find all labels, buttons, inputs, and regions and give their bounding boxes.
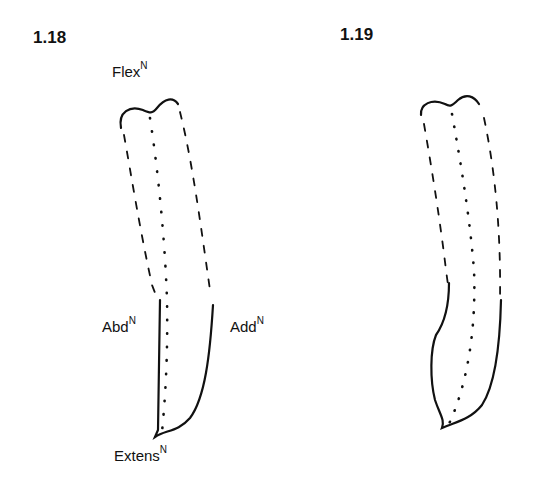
finger-diagrams (0, 0, 536, 481)
finger-outline-1-19 (421, 96, 501, 428)
finger-outline-1-18 (121, 99, 213, 437)
